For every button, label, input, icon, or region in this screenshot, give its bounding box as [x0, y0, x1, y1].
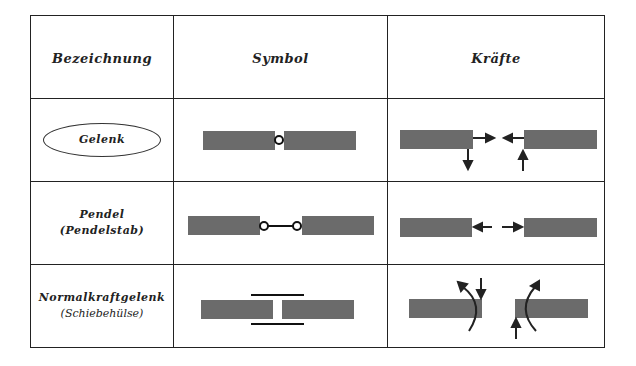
normalkraftgelenk-symbol	[174, 265, 387, 347]
header-bezeichnung: Bezeichnung	[52, 51, 152, 66]
row-normalkraftgelenk: Normalkraftgelenk (Schiebehülse)	[31, 265, 605, 348]
header-row: Bezeichnung Symbol Kräfte	[31, 16, 605, 99]
normalkraftgelenk-label: Normalkraftgelenk	[31, 290, 173, 306]
row-gelenk: Gelenk	[31, 99, 605, 182]
pendel-symbol	[174, 182, 387, 264]
gelenk-forces	[388, 99, 604, 181]
pendel-sublabel: (Pendelstab)	[31, 223, 173, 239]
header-symbol: Symbol	[252, 51, 308, 66]
gelenk-symbol	[174, 99, 387, 181]
pendel-label: Pendel	[31, 207, 173, 223]
normalkraftgelenk-sublabel: (Schiebehülse)	[31, 306, 173, 322]
joint-types-table: Bezeichnung Symbol Kräfte Gelenk	[30, 15, 605, 348]
header-kraefte: Kräfte	[471, 51, 520, 66]
pendel-forces	[388, 182, 604, 264]
normalkraftgelenk-forces	[388, 265, 604, 347]
gelenk-label: Gelenk	[43, 123, 161, 157]
row-pendel: Pendel (Pendelstab)	[31, 182, 605, 265]
